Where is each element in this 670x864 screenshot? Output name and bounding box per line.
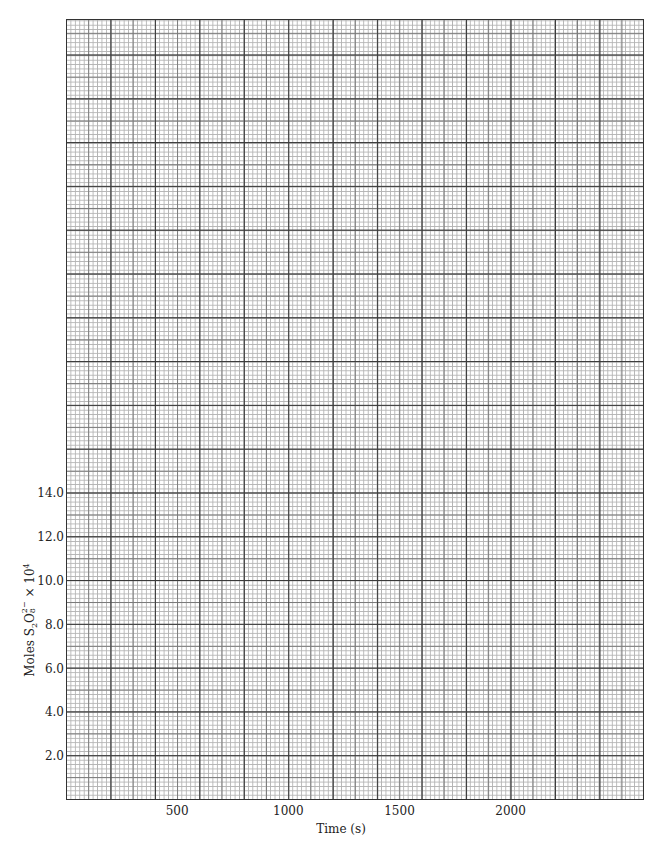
y-tick-label: 12.0 — [37, 531, 64, 543]
y-axis-title-charge-stack: 2−8 — [21, 601, 37, 613]
y-axis-title-mid: O — [23, 613, 37, 623]
y-tick-label: 4.0 — [45, 706, 64, 718]
y-tick-label: 10.0 — [37, 575, 64, 587]
y-axis-title-sub1: 2 — [30, 623, 39, 628]
y-axis-title-exponent: 4 — [22, 563, 31, 568]
y-tick-label: 8.0 — [45, 619, 64, 631]
y-axis-title-sub2: 8 — [29, 601, 37, 613]
y-tick-label: 6.0 — [45, 663, 64, 675]
x-tick-label: 1000 — [273, 805, 304, 817]
y-axis-title: Moles S2O2−8 × 104 — [22, 563, 38, 676]
y-tick-label: 14.0 — [37, 487, 64, 499]
graph-paper-plot-area — [66, 19, 644, 800]
x-tick-label: 500 — [166, 805, 189, 817]
x-tick-label: 1500 — [384, 805, 415, 817]
x-tick-label: 2000 — [495, 805, 526, 817]
y-axis-title-prefix: Moles S — [23, 628, 37, 677]
y-tick-label: 2.0 — [45, 750, 64, 762]
y-axis-title-suffix: × 10 — [23, 568, 37, 601]
x-axis-title: Time (s) — [316, 822, 366, 836]
